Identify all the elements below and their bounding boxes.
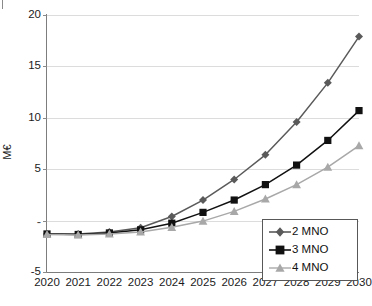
x-tick-label-2025: 2025	[190, 277, 216, 289]
data-point	[199, 209, 206, 216]
square-marker-icon	[268, 242, 292, 258]
legend-item-2mno[interactable]: 2 MNO	[263, 223, 357, 241]
x-tick-label-2021: 2021	[65, 277, 91, 289]
x-tick-label-2024: 2024	[159, 277, 185, 289]
legend-item-3mno[interactable]: 3 MNO	[263, 241, 357, 259]
x-tick-label-2026: 2026	[221, 277, 247, 289]
chart-legend: 2 MNO 3 MNO 4 MNO	[262, 219, 358, 281]
legend-label-3mno: 3 MNO	[292, 244, 328, 256]
series-2-mno	[43, 33, 363, 238]
diamond-marker-icon	[268, 224, 292, 240]
data-point	[231, 196, 238, 203]
data-point	[168, 212, 176, 220]
triangle-marker-icon	[268, 260, 292, 276]
data-point	[292, 180, 301, 188]
data-point	[293, 161, 300, 168]
legend-label-2mno: 2 MNO	[292, 226, 328, 238]
data-point	[355, 141, 364, 149]
x-tick-label-2022: 2022	[97, 277, 123, 289]
data-point	[199, 196, 207, 204]
x-tick-label-2020: 2020	[34, 277, 60, 289]
data-point	[355, 107, 362, 114]
y-axis-label: M€	[1, 144, 13, 159]
line-chart: M€ -5-5101520 20202021202220232024202520…	[0, 0, 372, 306]
data-point	[230, 207, 239, 215]
legend-item-4mno[interactable]: 4 MNO	[263, 259, 357, 277]
y-tick-label-10: 10	[28, 112, 41, 124]
data-point	[323, 163, 332, 171]
y-tick-label-5: 5	[35, 163, 41, 175]
y-tick-label-0: -	[37, 214, 41, 227]
y-tick-label-20: 20	[28, 9, 41, 21]
data-point	[324, 137, 331, 144]
corner-tick-mark	[2, 0, 3, 9]
y-tick-mark--5	[43, 272, 47, 273]
data-point	[355, 33, 363, 41]
y-tick-label-15: 15	[28, 61, 41, 73]
series-line	[47, 37, 359, 234]
x-tick-label-2023: 2023	[128, 277, 154, 289]
data-point	[261, 195, 270, 203]
data-point	[262, 181, 269, 188]
legend-label-4mno: 4 MNO	[292, 262, 328, 274]
